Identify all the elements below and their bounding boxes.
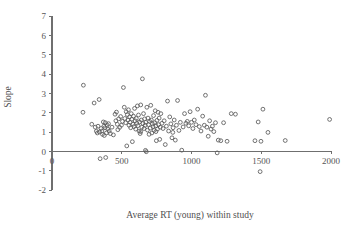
data-point (328, 118, 332, 122)
data-point (199, 129, 203, 133)
data-point (258, 170, 262, 174)
data-point (171, 126, 175, 130)
scatter-plot-figure: -2-101234567 0500100015002000 Average RT… (0, 0, 355, 233)
x-tick-label: 1500 (252, 156, 271, 166)
y-tick-label: -2 (39, 185, 47, 195)
data-point (192, 118, 196, 122)
x-tick-label: 2000 (322, 156, 341, 166)
data-point (168, 115, 172, 119)
y-tick-label: 5 (42, 50, 47, 60)
data-point (158, 137, 162, 141)
data-point (259, 139, 263, 143)
y-tick-label: 6 (42, 31, 47, 41)
x-axis-title: Average RT (young) within study (126, 210, 254, 221)
data-point (181, 125, 185, 129)
y-tick-label: 2 (42, 108, 47, 118)
data-point (266, 130, 270, 134)
data-point (219, 139, 223, 143)
data-point (173, 138, 177, 142)
data-point (222, 121, 226, 125)
data-point (125, 144, 129, 148)
y-axis-title: Slope (3, 86, 13, 108)
data-point (98, 157, 102, 161)
data-point (191, 127, 195, 131)
data-point (178, 120, 182, 124)
data-point (229, 112, 233, 116)
data-point (141, 77, 145, 81)
data-point (214, 121, 218, 125)
data-point (283, 139, 287, 143)
data-point (162, 119, 166, 123)
data-point (175, 123, 179, 127)
y-tick-label: 1 (42, 127, 47, 137)
data-point (188, 110, 192, 114)
x-tick-label: 0 (50, 156, 55, 166)
data-point (201, 114, 205, 118)
data-point (81, 83, 85, 87)
data-point (225, 139, 229, 143)
data-point (149, 103, 153, 107)
data-point (163, 143, 167, 147)
data-point (253, 139, 257, 143)
data-point (187, 124, 191, 128)
data-point (104, 156, 108, 160)
data-point (261, 107, 265, 111)
data-point (176, 99, 180, 103)
data-point (208, 119, 212, 123)
x-tick-label: 500 (115, 156, 129, 166)
data-point (130, 140, 134, 144)
data-point (183, 112, 187, 116)
x-axis-group: 0500100015002000 (50, 151, 341, 166)
y-tick-label: 4 (42, 69, 47, 79)
x-tick-label: 1000 (183, 156, 202, 166)
data-point (177, 129, 181, 133)
data-point (122, 105, 126, 109)
data-point (137, 113, 141, 117)
data-point (204, 93, 208, 97)
data-point (142, 112, 146, 116)
data-point (256, 120, 260, 124)
data-point (110, 125, 114, 129)
y-tick-labels: -2-101234567 (39, 11, 47, 195)
plot-canvas: -2-101234567 0500100015002000 Average RT… (0, 0, 355, 233)
x-tick-labels: 0500100015002000 (50, 156, 341, 166)
y-tick-label: 3 (42, 89, 47, 99)
data-point (196, 107, 200, 111)
data-point (197, 125, 201, 129)
data-point (152, 114, 156, 118)
data-point (122, 86, 126, 90)
y-axis-group: -2-101234567 (39, 11, 53, 195)
data-point (169, 122, 173, 126)
data-point (171, 130, 175, 134)
y-tick-label: 0 (42, 147, 47, 157)
data-point (234, 112, 238, 116)
data-point (157, 116, 161, 120)
data-point (166, 99, 170, 103)
data-point (81, 110, 85, 114)
data-point (92, 101, 96, 105)
data-point (206, 134, 210, 138)
data-point (172, 118, 176, 122)
data-point (155, 119, 159, 123)
data-point (212, 130, 216, 134)
data-point (164, 124, 168, 128)
data-point (145, 105, 149, 109)
y-tick-label: -1 (39, 166, 47, 176)
data-point (90, 122, 94, 126)
data-point (167, 129, 171, 133)
y-tick-label: 7 (42, 11, 47, 21)
data-point (97, 98, 101, 102)
